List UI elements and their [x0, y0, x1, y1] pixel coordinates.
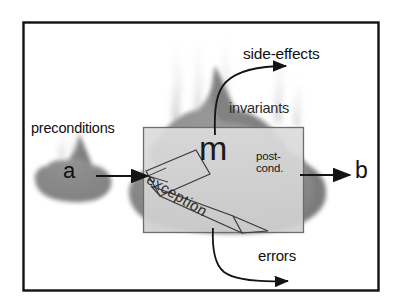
- label-side-effects: side-effects: [243, 46, 320, 62]
- label-postcondition: post- cond.: [256, 150, 283, 174]
- label-method-m: m: [199, 131, 227, 167]
- label-postcond-line2: cond.: [256, 162, 283, 174]
- label-postcond-line1: post-: [256, 150, 283, 162]
- label-errors: errors: [258, 248, 296, 264]
- label-preconditions: preconditions: [31, 121, 115, 136]
- label-output-b: b: [355, 158, 368, 182]
- label-invariants: invariants: [229, 101, 289, 116]
- diagram-canvas: preconditions side-effects invariants er…: [0, 0, 400, 307]
- label-input-a: a: [63, 159, 75, 182]
